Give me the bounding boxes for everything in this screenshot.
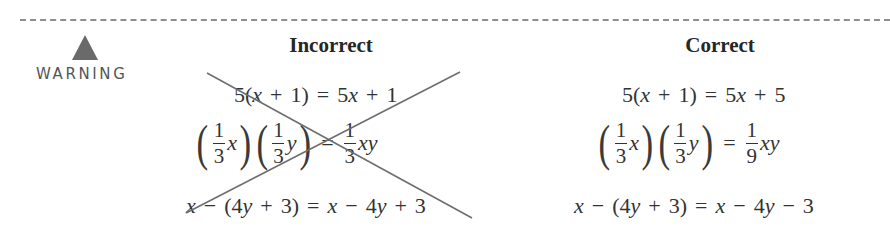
eq-var: y (631, 193, 641, 219)
left-paren: ( (598, 118, 610, 168)
eq-var: y (765, 193, 775, 219)
fraction: 13 (213, 120, 226, 167)
incorrect-heading: Incorrect (231, 33, 431, 58)
eq-token: 4 (366, 193, 377, 219)
eq-op: + (260, 193, 272, 219)
eq-token: 1) (679, 82, 697, 108)
incorrect-equation-1: 5(x+1)=5x+1 (234, 82, 397, 108)
right-paren: ) (239, 118, 251, 168)
left-paren: ( (658, 118, 670, 168)
eq-op: + (658, 82, 670, 108)
eq-token: 3 (803, 193, 814, 219)
eq-equals: = (321, 130, 333, 156)
eq-var: x (715, 193, 725, 219)
eq-token: 4 (754, 193, 765, 219)
dashed-divider (20, 19, 890, 21)
warning-label: WARNING (36, 65, 127, 83)
eq-token: 5( (234, 82, 252, 108)
eq-op: + (754, 82, 766, 108)
warning-triangle-icon (72, 35, 98, 60)
eq-equals: = (723, 130, 735, 156)
eq-op: + (270, 82, 282, 108)
eq-var: y (377, 193, 387, 219)
eq-var: xy (358, 130, 378, 156)
correct-heading: Correct (620, 33, 820, 58)
eq-var: y (243, 193, 253, 219)
fraction: 19 (746, 120, 759, 167)
fraction: 13 (615, 120, 628, 167)
eq-token: 5 (774, 82, 785, 108)
eq-token: (4 (612, 193, 630, 219)
eq-op: − (782, 193, 794, 219)
eq-var: x (736, 82, 746, 108)
left-paren: ( (256, 118, 268, 168)
eq-var: x (186, 193, 196, 219)
eq-var: xy (760, 130, 780, 156)
eq-token: 3) (281, 193, 299, 219)
fraction: 13 (674, 120, 687, 167)
right-paren: ) (701, 118, 713, 168)
right-paren: ) (299, 118, 311, 168)
eq-var: y (689, 130, 699, 156)
eq-token: 5 (725, 82, 736, 108)
incorrect-equation-2: ( 13 x ) ( 13 y ) = 13 xy (194, 118, 378, 168)
eq-op: − (592, 193, 604, 219)
eq-op: + (366, 82, 378, 108)
eq-var: x (348, 82, 358, 108)
eq-var: x (327, 193, 337, 219)
eq-op: + (648, 193, 660, 219)
correct-equation-2: ( 13 x ) ( 13 y ) = 19 xy (596, 118, 780, 168)
eq-var: x (629, 130, 639, 156)
eq-token: 5 (337, 82, 348, 108)
eq-op: − (204, 193, 216, 219)
eq-op: − (345, 193, 357, 219)
left-paren: ( (196, 118, 208, 168)
correct-equation-1: 5(x+1)=5x+5 (622, 82, 785, 108)
eq-token: 3 (415, 193, 426, 219)
eq-op: + (394, 193, 406, 219)
eq-var: x (227, 130, 237, 156)
correct-equation-3: x−(4y+3)=x−4y−3 (574, 193, 814, 219)
eq-token: 1) (291, 82, 309, 108)
eq-equals: = (317, 82, 329, 108)
eq-var: y (287, 130, 297, 156)
fraction: 13 (272, 120, 285, 167)
warning-callout: WARNING (34, 34, 140, 88)
right-paren: ) (641, 118, 653, 168)
eq-token: 1 (386, 82, 397, 108)
eq-token: (4 (224, 193, 242, 219)
eq-op: − (733, 193, 745, 219)
incorrect-equation-3: x−(4y+3)=x−4y+3 (186, 193, 426, 219)
eq-token: 5( (622, 82, 640, 108)
eq-var: x (640, 82, 650, 108)
eq-var: x (574, 193, 584, 219)
eq-var: x (252, 82, 262, 108)
eq-token: 3) (669, 193, 687, 219)
eq-equals: = (307, 193, 319, 219)
fraction: 13 (344, 120, 357, 167)
eq-equals: = (695, 193, 707, 219)
eq-equals: = (705, 82, 717, 108)
